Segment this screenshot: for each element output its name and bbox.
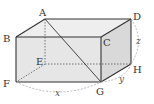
cuboid-diagram: A B C D E F G H x y z — [0, 0, 154, 104]
dimension-label-z: z — [135, 36, 141, 46]
vertex-label-F: F — [3, 78, 10, 89]
vertex-label-E: E — [36, 56, 43, 67]
dimension-label-y: y — [118, 74, 125, 84]
dimension-label-x: x — [55, 88, 60, 98]
front-face — [16, 37, 101, 82]
vertex-label-C: C — [103, 37, 111, 48]
vertex-label-A: A — [38, 7, 47, 18]
vertex-label-H: H — [133, 64, 142, 75]
vertex-label-D: D — [133, 11, 141, 22]
vertex-label-B: B — [3, 33, 10, 44]
vertex-label-G: G — [96, 86, 104, 97]
